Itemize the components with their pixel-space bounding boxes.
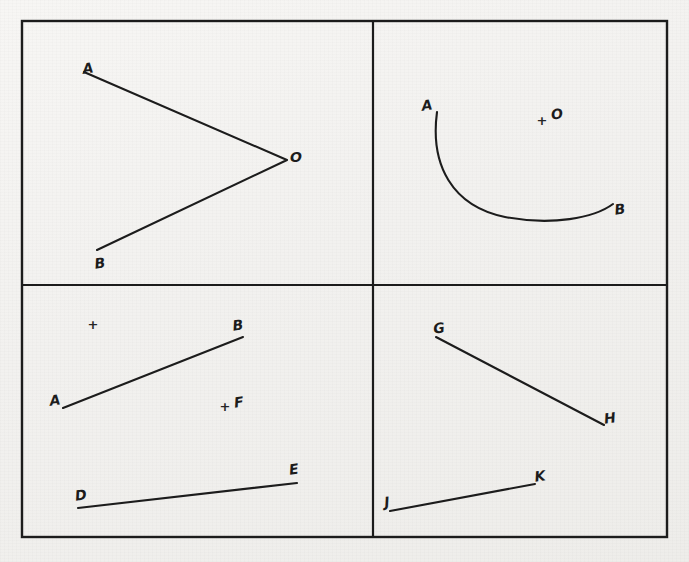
point-label-a: A [49,392,62,407]
point-label-h: H [603,410,617,426]
worksheet-page: AOBABO+ABDEF++GHJK [0,0,689,562]
point-label-a: A [82,60,95,75]
point-label-o: O [290,150,302,164]
point-label-a: A [421,97,434,112]
point-label-o: O [550,106,564,122]
center-point-o-plus-icon: + [537,114,548,127]
point-label-g: G [432,320,446,335]
point-label-k: K [534,468,547,483]
point-f-plus-icon: + [220,400,231,413]
point-label-b: B [614,201,627,216]
point-label-d: D [74,487,88,503]
point-label-j: J [383,495,390,510]
point-label-f: F [233,394,245,409]
labels-layer: AOBABO+ABDEF++GHJK [0,0,689,562]
point-label-b: B [94,255,107,270]
point-label-e: E [288,461,300,476]
unlabeled-point-plus-icon: + [88,318,99,331]
point-label-b: B [232,317,245,332]
